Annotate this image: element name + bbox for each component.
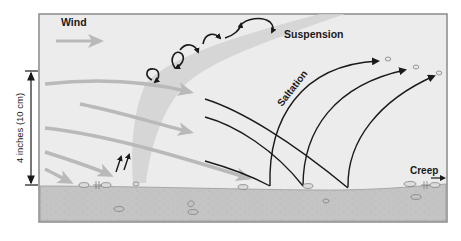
height-scale-label: 4 inches (10 cm) <box>14 93 25 163</box>
height-scale <box>25 71 38 185</box>
wind-label: Wind <box>61 16 87 28</box>
suspension-label: Suspension <box>284 28 344 40</box>
creep-label: Creep <box>410 165 438 176</box>
wind-erosion-diagram: Wind Suspension Saltation <box>0 0 461 241</box>
